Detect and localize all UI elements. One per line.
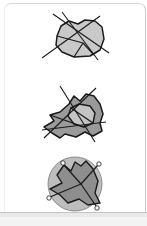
marker-top-right-icon (97, 162, 101, 166)
panel-circumscribed-circle-with-markers (0, 146, 147, 218)
marker-bottom-right-icon (95, 206, 99, 210)
panel-1-canvas (0, 2, 147, 80)
page-bottom-band-inner (0, 217, 147, 226)
panel-nonconvex-polygon-with-kernel (0, 74, 147, 152)
marker-bottom-left-icon (47, 196, 51, 200)
marker-top-left-icon (61, 161, 65, 165)
panel-2-canvas (0, 74, 147, 152)
polygon-shape (56, 20, 104, 57)
panel-3-canvas (0, 146, 147, 218)
figure-page (0, 0, 147, 226)
panel-convex-polygon-with-transversals (0, 2, 147, 80)
